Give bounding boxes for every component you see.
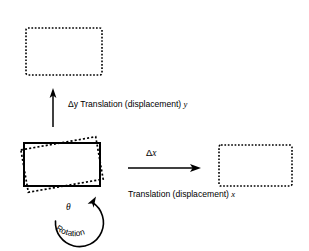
delta-x-axis: x [152, 148, 156, 158]
theta-label: θ [66, 203, 71, 213]
diagram-canvas [0, 0, 309, 251]
translated-y-rectangle [26, 28, 102, 75]
translation-x-arrow [128, 164, 201, 172]
translation-y-axis: y [184, 99, 188, 109]
delta-y-symbol: Δy [68, 99, 78, 109]
translation-x-text: Translation (displacement) [128, 189, 231, 199]
rotated-rectangle [21, 137, 103, 193]
translated-x-rectangle [219, 145, 292, 186]
translation-y-arrow [50, 88, 57, 127]
transformation-diagram: Rotation Δy Translation (displacement) y… [0, 0, 309, 251]
translation-x-label: Translation (displacement) x [128, 190, 235, 199]
original-rectangle [24, 143, 100, 186]
translation-y-label: Δy Translation (displacement) y [68, 100, 187, 109]
translation-y-text: Translation (displacement) [78, 99, 184, 109]
delta-x-label: Δx [146, 149, 156, 158]
rotation-arc-arrow [55, 197, 103, 247]
translation-x-axis: x [231, 189, 235, 199]
